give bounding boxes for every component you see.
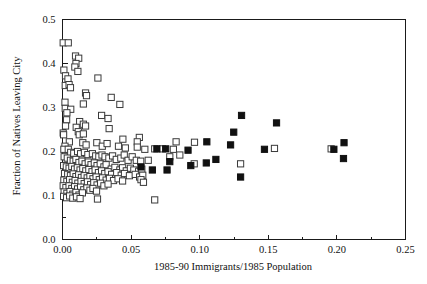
- data-point: [122, 145, 128, 151]
- y-tick-label: 0.4: [42, 58, 56, 69]
- data-point: [227, 142, 233, 148]
- data-point: [261, 146, 267, 152]
- data-point: [117, 101, 123, 107]
- data-point: [106, 126, 112, 132]
- data-point: [120, 136, 126, 142]
- data-point: [80, 101, 86, 107]
- chart-canvas: 0.000.050.100.150.200.25 0.00.10.20.30.4…: [0, 0, 427, 284]
- data-point: [77, 195, 83, 201]
- data-point: [238, 112, 244, 118]
- data-point: [115, 143, 121, 149]
- scatter-plot-figure: 0.000.050.100.150.200.25 0.00.10.20.30.4…: [0, 0, 427, 284]
- y-tick-label: 0.3: [42, 102, 55, 113]
- data-point: [191, 139, 197, 145]
- data-point: [82, 123, 88, 129]
- y-tick-label: 0.5: [42, 14, 55, 25]
- data-point: [80, 131, 86, 137]
- data-point: [273, 120, 279, 126]
- x-axis-label: 1985-90 Immigrants/1985 Population: [154, 261, 313, 272]
- data-point: [67, 85, 73, 91]
- data-point: [83, 93, 89, 99]
- data-point: [105, 115, 111, 121]
- data-point: [177, 152, 183, 158]
- data-point: [83, 142, 89, 148]
- data-point: [213, 156, 219, 162]
- data-point: [64, 110, 70, 116]
- data-point: [64, 117, 70, 123]
- data-point: [185, 147, 191, 153]
- data-point: [126, 173, 132, 179]
- x-tick-label: 0.20: [328, 244, 346, 255]
- data-point: [271, 145, 277, 151]
- data-point: [331, 146, 337, 152]
- data-point: [105, 181, 111, 187]
- data-point: [94, 196, 100, 202]
- data-point: [173, 139, 179, 145]
- data-point: [164, 167, 170, 173]
- data-point: [140, 179, 146, 185]
- x-tick-label: 0.00: [53, 244, 71, 255]
- data-point: [237, 174, 243, 180]
- data-point: [163, 146, 169, 152]
- y-tick-label: 0.0: [42, 234, 55, 245]
- data-point: [142, 146, 148, 152]
- data-point: [237, 161, 243, 167]
- data-point: [188, 162, 194, 168]
- data-point: [99, 112, 105, 118]
- x-tick-label: 0.25: [396, 244, 414, 255]
- y-axis-label: Fraction of Natives Leaving City: [11, 56, 22, 196]
- data-point: [134, 144, 140, 150]
- data-point: [93, 188, 99, 194]
- data-point: [154, 146, 160, 152]
- data-point: [104, 140, 110, 146]
- data-point: [65, 40, 71, 46]
- data-point: [62, 99, 68, 105]
- data-point: [138, 164, 144, 170]
- x-tick-label: 0.15: [259, 244, 277, 255]
- x-tick-label: 0.05: [122, 244, 140, 255]
- y-tick-label: 0.1: [42, 190, 55, 201]
- data-point: [108, 94, 114, 100]
- data-point: [61, 132, 67, 138]
- data-point: [119, 178, 125, 184]
- data-point: [95, 75, 101, 81]
- data-point: [75, 68, 81, 74]
- data-point: [170, 146, 176, 152]
- data-point: [167, 159, 173, 165]
- data-point: [341, 140, 347, 146]
- data-point: [204, 139, 210, 145]
- data-point: [152, 197, 158, 203]
- data-point: [340, 155, 346, 161]
- data-point: [62, 123, 68, 129]
- data-point: [203, 160, 209, 166]
- x-tick-label: 0.10: [191, 244, 209, 255]
- data-point: [149, 167, 155, 173]
- data-point: [231, 129, 237, 135]
- data-point: [145, 157, 151, 163]
- y-tick-label: 0.2: [42, 146, 55, 157]
